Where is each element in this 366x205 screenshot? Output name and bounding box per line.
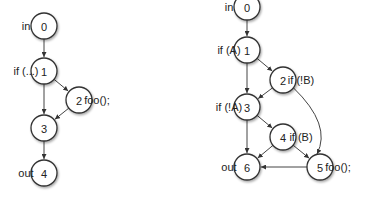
control-flow-graphs: 0in1if (...)2foo();34out0in1if (A)2if (!… (0, 0, 366, 205)
node-left-cfg-1: 1if (...) (13, 58, 57, 84)
edge-left-cfg-2-3 (55, 108, 69, 119)
node-right-cfg-4: 4if (B) (270, 124, 313, 150)
edge-right-cfg-2-5 (293, 88, 321, 154)
nodes-layer: 0in1if (...)2foo();34out0in1if (A)2if (!… (13, 0, 350, 186)
node-label: if (...) (13, 65, 38, 77)
node-id: 0 (244, 2, 250, 14)
node-label: if (B) (289, 131, 312, 143)
node-id: 2 (280, 75, 286, 87)
node-label: if (A) (217, 44, 240, 56)
node-id: 3 (244, 102, 250, 114)
node-label: out (221, 161, 236, 173)
node-id: 6 (244, 162, 250, 174)
node-left-cfg-0: 0in (22, 13, 57, 39)
node-right-cfg-5: 5foo(); (307, 154, 351, 180)
node-id: 4 (41, 168, 47, 180)
edge-right-cfg-4-6 (258, 145, 273, 158)
node-right-cfg-2: 2if (!B) (270, 67, 314, 93)
node-right-cfg-3: 3if (!A) (216, 94, 260, 120)
node-left-cfg-3: 3 (31, 115, 57, 141)
node-label: if (!B) (288, 74, 314, 86)
node-left-cfg-2: 2foo(); (66, 87, 110, 113)
node-id: 1 (244, 45, 250, 57)
node-id: 2 (76, 95, 82, 107)
node-id: 4 (280, 132, 286, 144)
edge-left-cfg-1-2 (54, 79, 68, 91)
node-id: 0 (41, 21, 47, 33)
node-id: 1 (41, 66, 47, 78)
node-label: in (22, 20, 31, 32)
edge-right-cfg-3-4 (257, 115, 272, 128)
node-label: out (18, 167, 33, 179)
node-label: in (225, 1, 234, 13)
node-id: 5 (317, 162, 323, 174)
node-left-cfg-4: 4out (18, 160, 57, 186)
node-label: foo(); (84, 94, 110, 106)
edge-right-cfg-1-2 (257, 58, 272, 71)
edge-right-cfg-2-3 (258, 88, 272, 99)
node-right-cfg-0: 0in (225, 0, 260, 20)
node-id: 3 (41, 123, 47, 135)
edge-right-cfg-4-5 (293, 145, 309, 158)
node-right-cfg-6: 6out (221, 154, 260, 180)
node-right-cfg-1: 1if (A) (217, 37, 260, 63)
node-label: foo(); (325, 161, 351, 173)
node-label: if (!A) (216, 101, 242, 113)
